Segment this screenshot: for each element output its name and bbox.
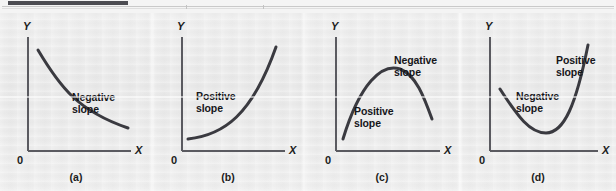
header-dark-bar	[8, 1, 128, 5]
origin-label: 0	[325, 155, 331, 166]
y-axis-label: Y	[331, 21, 338, 32]
slope-label-positive: Positive slope	[196, 91, 235, 114]
panel-c: Y X 0 Positive slope Negative slope (c)	[304, 13, 460, 191]
plot-d	[460, 13, 616, 165]
panel-b: Y X 0 Positive slope (b)	[152, 13, 304, 191]
slope-label-negative: Negative slope	[72, 92, 115, 115]
panel-d: Y X 0 Negative slope Positive slope (d)	[460, 13, 616, 191]
plot-b	[152, 13, 304, 165]
header-rule-secondary	[2, 8, 614, 9]
plot-c	[304, 13, 460, 165]
figure-header	[0, 0, 616, 13]
slope-label-negative: Negative slope	[394, 55, 437, 78]
figure-panels: Y X 0 Negative slope (a) Y X 0 Positive …	[0, 13, 616, 191]
slope-label-negative: Negative slope	[516, 91, 559, 114]
slope-label-positive: Positive slope	[556, 55, 595, 78]
panel-caption: (b)	[152, 171, 304, 183]
origin-label: 0	[479, 155, 485, 166]
panel-caption: (c)	[304, 171, 460, 183]
y-axis-label: Y	[177, 21, 184, 32]
x-axis-label: X	[289, 145, 296, 156]
origin-label: 0	[171, 155, 177, 166]
panel-a: Y X 0 Negative slope (a)	[0, 13, 152, 191]
plot-a	[0, 13, 152, 165]
x-axis-label: X	[602, 145, 609, 156]
y-axis-label: Y	[23, 21, 30, 32]
slope-label-positive: Positive slope	[354, 106, 393, 129]
x-axis-label: X	[444, 145, 451, 156]
origin-label: 0	[17, 155, 23, 166]
header-rule	[2, 6, 614, 7]
header-tick	[186, 5, 187, 9]
panel-caption: (a)	[0, 171, 152, 183]
x-axis-label: X	[135, 145, 142, 156]
header-tick	[263, 5, 264, 9]
panel-caption: (d)	[460, 171, 616, 183]
y-axis-label: Y	[485, 21, 492, 32]
